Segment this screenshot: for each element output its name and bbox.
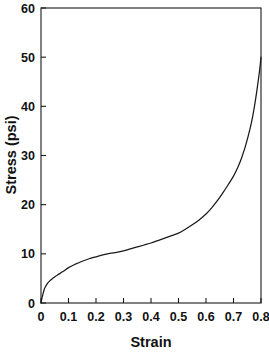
x-axis-tick-labels: 00.10.20.30.40.50.60.70.8: [38, 310, 269, 324]
y-axis-tick-labels: 0102030405060: [21, 2, 35, 311]
y-tick-label: 40: [21, 100, 35, 114]
stress-strain-curve: [41, 57, 261, 303]
y-tick-label: 0: [28, 297, 35, 311]
x-tick-label: 0.8: [252, 310, 269, 324]
y-tick-label: 30: [21, 149, 35, 163]
x-tick-label: 0.2: [87, 310, 104, 324]
y-axis-ticks: [41, 8, 46, 303]
x-axis-ticks: [41, 298, 261, 303]
x-axis-title: Strain: [130, 334, 171, 350]
plot-frame: [41, 8, 261, 303]
x-tick-label: 0.5: [170, 310, 187, 324]
x-tick-label: 0.4: [142, 310, 159, 324]
x-tick-label: 0.7: [225, 310, 242, 324]
stress-strain-chart: 0102030405060 00.10.20.30.40.50.60.70.8 …: [0, 0, 269, 353]
chart-canvas: 0102030405060 00.10.20.30.40.50.60.70.8 …: [0, 0, 269, 353]
y-tick-label: 60: [21, 2, 35, 16]
x-tick-label: 0.6: [197, 310, 214, 324]
y-tick-label: 50: [21, 51, 35, 65]
x-tick-label: 0.1: [60, 310, 77, 324]
y-tick-label: 10: [21, 247, 35, 261]
x-tick-label: 0.3: [115, 310, 132, 324]
x-tick-label: 0: [38, 310, 45, 324]
y-tick-label: 20: [21, 198, 35, 212]
y-axis-title: Stress (psi): [3, 115, 19, 194]
